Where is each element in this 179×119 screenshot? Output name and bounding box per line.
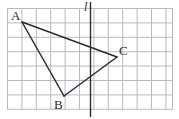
geometry-figure: A B C l <box>0 0 179 119</box>
vertex-label-a: A <box>11 9 20 22</box>
edge-AB <box>22 22 64 96</box>
line-label-l: l <box>84 1 87 13</box>
figure-canvas <box>0 0 179 119</box>
vertex-label-c: C <box>119 44 128 57</box>
vertex-label-b: B <box>54 98 63 111</box>
